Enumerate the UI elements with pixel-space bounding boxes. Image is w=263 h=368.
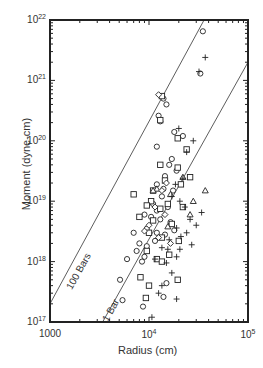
y-tick-label: 1021 (27, 73, 46, 85)
x-tick-label: 1000 (38, 328, 62, 339)
scatter-chart (0, 0, 263, 368)
data-points (117, 29, 208, 321)
y-tick-label: 1018 (27, 255, 46, 267)
x-tick-label: 105 (236, 328, 260, 340)
x-tick-label: 104 (137, 328, 161, 340)
x-axis-label: Radius (cm) (118, 344, 177, 356)
y-tick-label: 1022 (27, 13, 46, 25)
y-axis-label: Moment (dyne-cm) (20, 114, 32, 214)
y-tick-label: 1017 (27, 315, 46, 327)
